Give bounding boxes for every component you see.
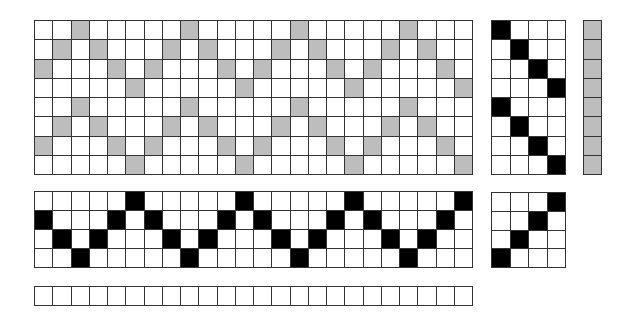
grid-cell [455,192,473,211]
grid-cell [418,230,436,249]
grid-cell [345,98,363,117]
grid-cell [90,21,108,40]
grid-cell [254,21,272,40]
grid-cell [400,156,418,175]
grid-cell [400,40,418,59]
grid-cell [291,21,309,40]
grid-cell [254,79,272,98]
grid-cell [53,249,71,268]
grid-cell [218,21,236,40]
grid-cell [492,249,511,268]
grid-cell [145,79,163,98]
grid-cell [163,117,181,136]
grid-cell [35,192,53,211]
grid-cell [126,211,144,230]
grid-cell [254,137,272,156]
grid-cell [218,79,236,98]
grid-cell [108,98,126,117]
grid-cell [327,287,345,306]
grid-cell [418,40,436,59]
grid-cell [218,40,236,59]
grid-cell [511,21,530,40]
grid-cell [236,156,254,175]
grid-cell [345,40,363,59]
grid-cell [199,192,217,211]
grid-cell [327,249,345,268]
grid-cell [584,156,602,175]
grid-cell [400,117,418,136]
grid-cell [218,249,236,268]
grid-cell [455,249,473,268]
grid-cell [345,137,363,156]
grid-cell [163,249,181,268]
grid-cell [126,156,144,175]
grid-cell [90,117,108,136]
grid-cell [291,40,309,59]
grid-cell [236,60,254,79]
grid-cell [145,192,163,211]
grid-cell [511,40,530,59]
grid-cell [90,60,108,79]
grid-cell [53,230,71,249]
grid-cell [272,287,290,306]
grid-cell [90,40,108,59]
grid-cell [163,192,181,211]
grid-cell [548,117,567,136]
grid-cell [511,212,530,231]
grid-cell [291,249,309,268]
tieup-grid [491,192,566,268]
grid-cell [291,287,309,306]
grid-cell [345,60,363,79]
grid-cell [145,60,163,79]
grid-cell [254,60,272,79]
grid-cell [529,117,548,136]
grid-cell [254,98,272,117]
grid-cell [309,98,327,117]
grid-cell [53,40,71,59]
grid-cell [327,60,345,79]
grid-cell [218,60,236,79]
grid-cell [548,212,567,231]
grid-cell [53,117,71,136]
grid-cell [108,211,126,230]
grid-cell [364,156,382,175]
grid-cell [400,192,418,211]
grid-cell [72,211,90,230]
grid-cell [437,192,455,211]
grid-cell [364,230,382,249]
grid-cell [455,137,473,156]
grid-cell [492,98,511,117]
grid-cell [382,137,400,156]
grid-cell [126,79,144,98]
grid-cell [345,156,363,175]
grid-cell [327,211,345,230]
grid-cell [548,231,567,250]
grid-cell [511,98,530,117]
grid-cell [254,156,272,175]
grid-cell [163,98,181,117]
grid-cell [327,192,345,211]
grid-cell [35,137,53,156]
grid-cell [163,40,181,59]
grid-cell [584,60,602,79]
grid-cell [90,156,108,175]
grid-cell [327,98,345,117]
grid-cell [35,211,53,230]
grid-cell [35,60,53,79]
grid-cell [437,79,455,98]
grid-cell [163,137,181,156]
grid-cell [364,40,382,59]
grid-cell [511,137,530,156]
grid-cell [309,137,327,156]
grid-cell [309,60,327,79]
grid-cell [126,230,144,249]
grid-cell [218,192,236,211]
grid-cell [309,230,327,249]
grid-cell [511,79,530,98]
grid-cell [529,137,548,156]
grid-cell [163,79,181,98]
grid-cell [382,40,400,59]
grid-cell [272,79,290,98]
grid-cell [199,98,217,117]
grid-cell [584,79,602,98]
